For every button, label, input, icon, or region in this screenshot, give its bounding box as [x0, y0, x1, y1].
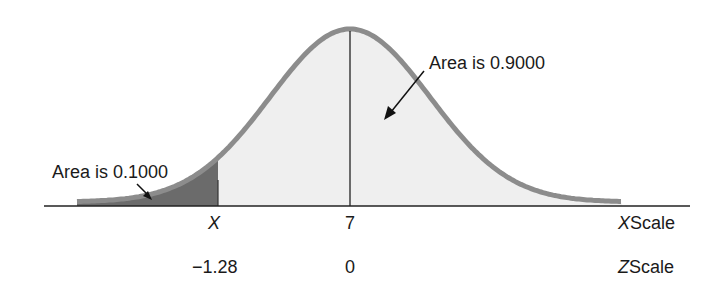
tail-area-label: Area is 0.1000	[52, 162, 168, 183]
z-scale-var: Z	[618, 257, 629, 277]
x-tick-x: X	[208, 213, 220, 234]
normal-curve-diagram	[0, 0, 726, 299]
body-area-label: Area is 0.9000	[429, 53, 545, 74]
z-scale-label: ZScale	[618, 257, 674, 278]
x-tick-mean: 7	[345, 213, 355, 234]
x-scale-label: XScale	[618, 213, 675, 234]
x-scale-word: Scale	[630, 213, 675, 233]
z-tick-cutoff: −1.28	[192, 257, 238, 278]
z-tick-mean: 0	[345, 257, 355, 278]
x-scale-var: X	[618, 213, 630, 233]
z-scale-word: Scale	[629, 257, 674, 277]
